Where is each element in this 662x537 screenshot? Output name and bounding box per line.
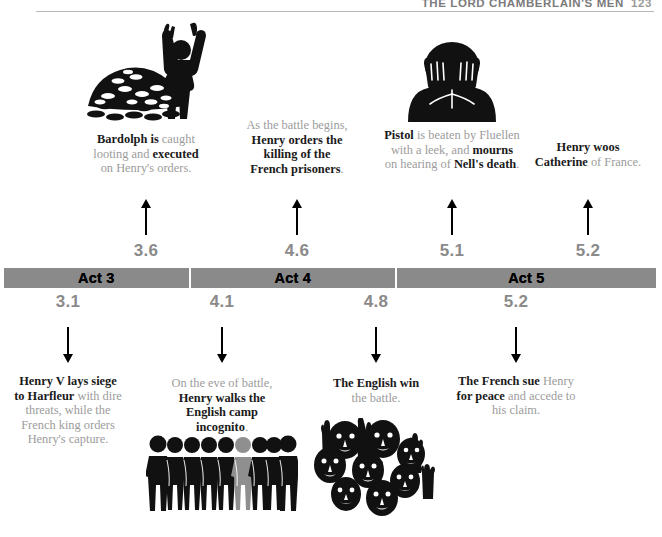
scene-number-above-5-1: 5.1: [440, 241, 465, 261]
arrowhead-icon: [511, 354, 521, 363]
act-timeline-bar: Act 3 Act 4 Act 5: [4, 268, 656, 288]
arrow-shaft: [451, 206, 453, 235]
illustration-mourning-figure-hands-on-face: [400, 42, 504, 122]
arrow-up-4-6: [290, 199, 304, 235]
scene-number-above-4-6: 4.6: [285, 241, 310, 261]
arrowhead-icon: [371, 354, 381, 363]
illustration-cheering-crowd-of-faces: [312, 418, 440, 518]
act-segment-act-5: Act 5: [397, 268, 656, 288]
caption-below-4-8: The English winthe battle.: [314, 376, 438, 405]
scene-number-above-5-2: 5.2: [576, 241, 601, 261]
caption-above-5-1: Pistol is beaten by Fluellenwith a leek,…: [376, 128, 528, 172]
arrow-shaft: [67, 327, 69, 356]
arrowhead-icon: [63, 354, 73, 363]
arrow-shaft: [145, 206, 147, 235]
arrow-shaft: [375, 327, 377, 356]
running-head-rule: [36, 11, 654, 12]
scene-number-above-3-6: 3.6: [134, 241, 159, 261]
arrow-shaft: [221, 327, 223, 356]
arrow-up-5-2: [581, 199, 595, 235]
arrow-down-3-1: [61, 327, 75, 363]
running-head-title: THE LORD CHAMBERLAIN'S MEN: [422, 0, 624, 9]
caption-below-3-1: Henry V lays siegeto Harfleur with diret…: [0, 374, 136, 447]
caption-below-4-1: On the eve of battle,Henry walks theEngl…: [156, 376, 288, 434]
arrow-shaft: [296, 206, 298, 235]
caption-above-5-2: Henry woosCatherine of France.: [520, 140, 656, 169]
scene-number-below-4-1: 4.1: [210, 292, 235, 312]
scene-number-below-3-1: 3.1: [56, 292, 81, 312]
arrow-down-5-2: [509, 327, 523, 363]
act-segment-act-4: Act 4: [191, 268, 397, 288]
arrow-shaft: [587, 206, 589, 235]
act-segment-label: Act 4: [275, 271, 311, 286]
arrow-down-4-1: [215, 327, 229, 363]
arrow-up-3-6: [139, 199, 153, 235]
scene-number-below-4-8: 4.8: [364, 292, 389, 312]
arrow-down-4-8: [369, 327, 383, 363]
arrowhead-icon: [217, 354, 227, 363]
scene-number-below-5-2: 5.2: [504, 292, 529, 312]
caption-above-4-6: As the battle begins,Henry orders thekil…: [232, 118, 362, 176]
caption-above-3-6: Bardolph is caughtlooting and executedon…: [76, 132, 216, 176]
act-segment-act-3: Act 3: [4, 268, 191, 288]
act-segment-label: Act 5: [508, 271, 544, 286]
arrow-up-5-1: [445, 199, 459, 235]
arrow-shaft: [515, 327, 517, 356]
page-folio: 123: [631, 0, 652, 9]
running-head: THE LORD CHAMBERLAIN'S MEN123: [422, 0, 652, 9]
illustration-row-of-soldiers-one-highlighted: [146, 432, 298, 524]
caption-below-5-2: The French sue Henryfor peace and accede…: [440, 374, 592, 418]
act-segment-label: Act 3: [78, 271, 114, 286]
illustration-coins-pile-with-cheering-figure: [76, 14, 216, 126]
